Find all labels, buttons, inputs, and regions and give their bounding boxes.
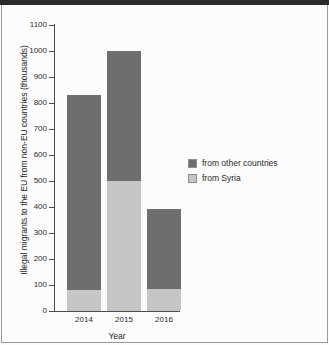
y-axis-tick-label: 0 xyxy=(7,307,47,315)
bar-segment-syria xyxy=(147,289,181,311)
bar-segment-other-countries xyxy=(67,95,101,290)
bar-group xyxy=(147,25,181,311)
bar-segment-other-countries xyxy=(147,209,181,289)
y-axis-tick-label-text: 100 xyxy=(13,281,47,289)
legend-swatch-icon xyxy=(188,174,197,183)
legend-item-label: from Syria xyxy=(202,174,241,183)
x-axis-title: Year xyxy=(54,331,180,341)
chart-page: 010020030040050060070080090010001100 Ill… xyxy=(0,0,329,345)
y-axis-tick-label: 100 xyxy=(7,281,47,289)
x-axis-line xyxy=(54,311,180,312)
bar-segment-syria xyxy=(107,181,141,311)
legend-item: from other countries xyxy=(188,158,318,169)
legend-item-label: from other countries xyxy=(202,159,278,168)
bar-group xyxy=(67,25,101,311)
bar-segment-other-countries xyxy=(107,51,141,181)
x-axis-tick-label: 2016 xyxy=(144,315,184,324)
bar-segment-syria xyxy=(67,290,101,311)
chart-frame: 010020030040050060070080090010001100 Ill… xyxy=(1,5,328,343)
bar-group xyxy=(107,25,141,311)
y-axis-tick xyxy=(49,311,55,312)
legend-item: from Syria xyxy=(188,173,318,184)
plot-area xyxy=(55,25,177,311)
x-axis-tick-label: 2014 xyxy=(64,315,104,324)
y-axis-tick-label-text: 1100 xyxy=(13,21,47,29)
chart-legend: from other countriesfrom Syria xyxy=(188,158,318,188)
y-axis-tick-label: 1100 xyxy=(7,21,47,29)
y-axis-title: Illegal migrants to the EU from non-EU c… xyxy=(19,45,29,275)
x-axis-tick-label: 2015 xyxy=(104,315,144,324)
y-axis-tick-label-text: 0 xyxy=(13,307,47,315)
legend-swatch-icon xyxy=(188,159,197,168)
